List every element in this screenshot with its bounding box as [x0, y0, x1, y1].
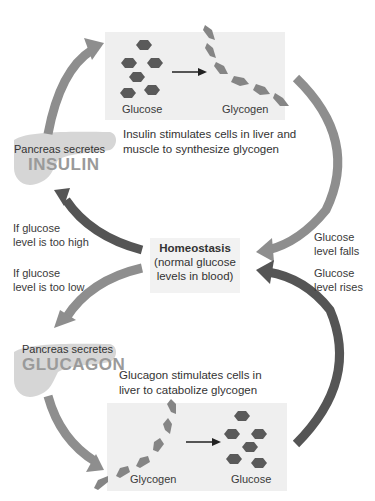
- too-low-line1: If glucose: [13, 266, 60, 280]
- homeostasis-box: Homeostasis (normal glucose levels in bl…: [150, 238, 240, 293]
- too-low-line2: level is too low: [13, 280, 85, 294]
- bottom-glucose-molecules: [224, 411, 267, 468]
- top-reaction-arrow: [172, 68, 207, 76]
- homeostasis-line1: (normal glucose: [150, 255, 240, 269]
- arrow-too-low: [54, 268, 142, 328]
- glucose-falls-line1: Glucose: [314, 230, 354, 244]
- arrow-insulin-to-liver: [48, 38, 104, 134]
- insulin-hormone-label: INSULIN: [28, 155, 100, 175]
- insulin-caption-line2: muscle to synthesize glycogen: [123, 142, 279, 157]
- glucose-falls-line2: level falls: [314, 244, 359, 258]
- too-high-line1: If glucose: [13, 221, 60, 235]
- bottom-glycogen-label: Glycogen: [130, 472, 176, 486]
- too-high-line2: level is too high: [13, 235, 89, 249]
- glucose-rises-line1: Glucose: [314, 266, 354, 280]
- top-glucose-label: Glucose: [122, 102, 162, 116]
- bottom-glucose-label: Glucose: [231, 472, 271, 486]
- top-glycogen-chain: [203, 25, 289, 106]
- glucagon-caption-line2: liver to catabolize glycogen: [119, 383, 257, 398]
- glucagon-hormone-label: GLUCAGON: [22, 355, 125, 375]
- glucose-rises-line2: level rises: [314, 280, 363, 294]
- homeostasis-title: Homeostasis: [150, 241, 240, 255]
- top-glycogen-label: Glycogen: [222, 102, 268, 116]
- glucagon-caption-line1: Glucagon stimulates cells in: [119, 368, 262, 383]
- top-glucose-molecules: [120, 40, 163, 98]
- bottom-reaction-arrow: [186, 438, 221, 446]
- insulin-caption-line1: Insulin stimulates cells in liver and: [123, 127, 296, 142]
- arrow-glucagon-to-liver: [48, 396, 104, 472]
- homeostasis-line2: levels in blood): [150, 269, 240, 283]
